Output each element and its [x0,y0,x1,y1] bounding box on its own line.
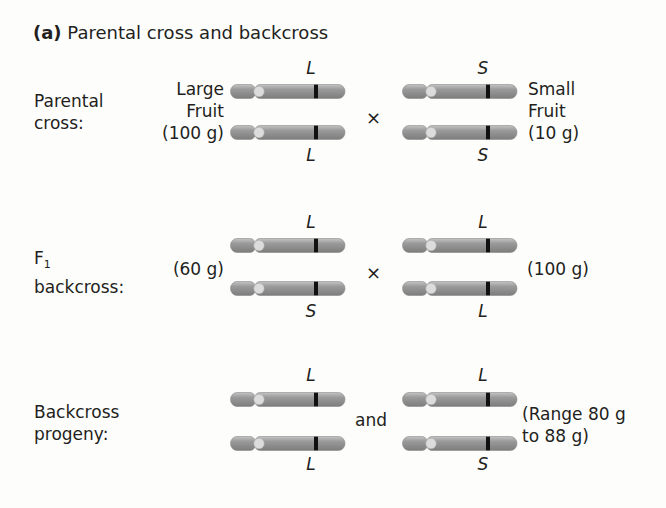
chromosome [402,281,518,296]
chromosome [230,436,346,451]
allele-label: S [473,454,493,474]
panel-title-text: Parental cross and backcross [67,22,328,43]
allele-label: L [473,301,493,321]
and-connector: and [355,409,387,431]
chromosome [230,281,346,296]
row-label-line1: Backcross [34,401,119,423]
row-label-line1: F1 [34,247,124,276]
allele-label: S [301,301,321,321]
allele-label: S [473,145,493,165]
row-label-line2: cross: [34,112,104,134]
row-label-line2: backcross: [34,276,124,298]
parent-left-note: Large Fruit (100 g) [150,78,224,144]
row-label-line2: progeny: [34,423,119,445]
chromosome [230,84,346,99]
allele-label: L [301,454,321,474]
cross-symbol: × [366,262,381,283]
chromosome [230,125,346,140]
chromosome [402,238,518,253]
allele-label: L [473,365,493,385]
label-subscript: 1 [44,258,51,271]
chromosome [402,125,518,140]
parent-right-note: Small Fruit (10 g) [528,78,579,144]
row-label-line1: Parental [34,90,104,112]
note-line: (60 g) [150,258,224,280]
f1-left-note: (60 g) [150,258,224,280]
row-label-parental-cross: Parental cross: [34,90,104,134]
note-line: (10 g) [528,122,579,144]
allele-label: S [473,58,493,78]
chromosome [402,392,518,407]
note-line: (Range 80 g [522,403,626,425]
chromosome [402,84,518,99]
chromosome [230,238,346,253]
allele-label: L [473,212,493,232]
row-label-backcross-progeny: Backcross progeny: [34,401,119,445]
note-line: Fruit [528,100,579,122]
label-f: F [34,248,44,268]
note-line: (100 g) [527,258,589,280]
cross-symbol: × [366,107,381,128]
note-line: (100 g) [150,122,224,144]
panel-label: (a) [33,22,62,43]
chromosome [230,392,346,407]
chromosome [402,436,518,451]
allele-label: L [301,145,321,165]
note-line: to 88 g) [522,425,626,447]
allele-label: L [301,212,321,232]
allele-label: L [301,365,321,385]
row-label-f1-backcross: F1 backcross: [34,247,124,298]
f1-right-note: (100 g) [527,258,589,280]
note-line: Large [150,78,224,100]
allele-label: L [301,58,321,78]
note-line: Small [528,78,579,100]
figure-title: (a) Parental cross and backcross [33,22,328,43]
progeny-right-note: (Range 80 g to 88 g) [522,403,626,447]
note-line: Fruit [150,100,224,122]
